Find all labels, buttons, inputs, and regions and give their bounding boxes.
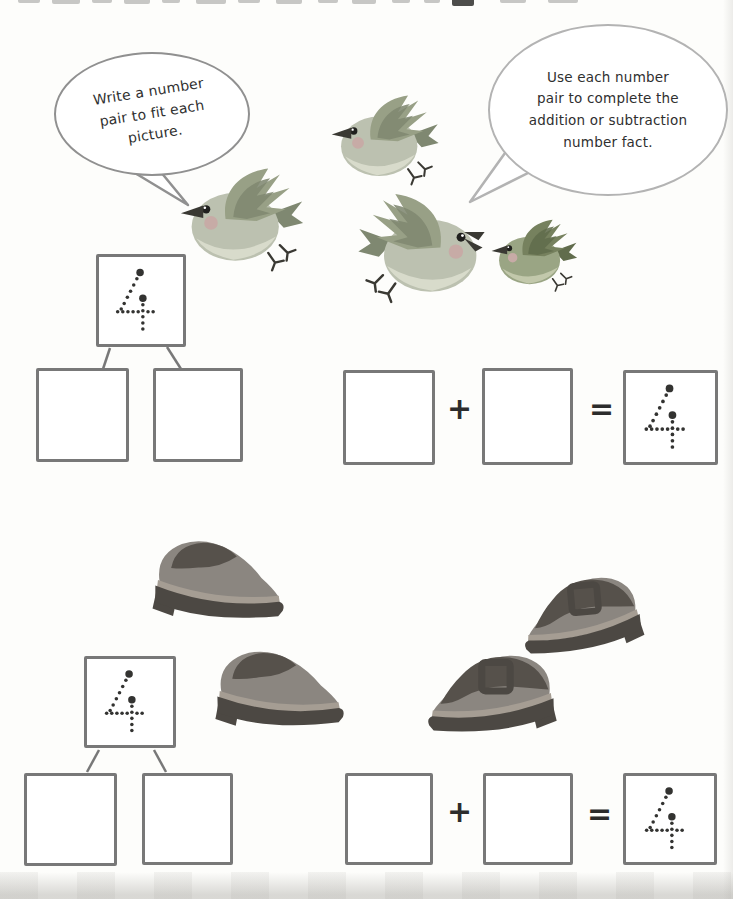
equals-sign: = — [589, 394, 614, 424]
plus-sign: + — [447, 797, 472, 827]
equation-birds: + = — [343, 368, 718, 465]
bond-total-box-shoes[interactable] — [84, 656, 176, 748]
equation-result-box-shoes[interactable] — [623, 773, 717, 865]
equation-addend1-box-shoes[interactable] — [345, 773, 433, 865]
bond-part-box-1-shoes[interactable] — [24, 773, 117, 866]
speech-bubble-right-text: Use each number pair to complete the add… — [529, 67, 688, 153]
shoe-illustration-2 — [203, 637, 352, 739]
cutoff-page-title — [0, 0, 733, 7]
scan-shadow-right — [723, 0, 733, 899]
equation-addend1-box-birds[interactable] — [343, 370, 435, 465]
bubble-line: pair to complete the — [529, 88, 688, 110]
number-bond-birds — [36, 254, 246, 462]
bond-total-box-birds[interactable] — [96, 254, 186, 347]
speech-bubble-left: Write a number pair to fit each picture. — [54, 52, 250, 176]
bird-illustration-4 — [489, 217, 581, 293]
trace-numeral-4 — [87, 659, 173, 745]
bubble-line: Use each number — [529, 67, 688, 89]
shoe-illustration-1 — [140, 525, 295, 634]
scan-shadow-band — [0, 872, 733, 899]
worksheet-page: Write a number pair to fit each picture.… — [0, 0, 733, 899]
number-bond-shoes — [24, 656, 234, 866]
trace-numeral-4 — [626, 373, 715, 462]
trace-numeral-4 — [626, 776, 714, 862]
speech-bubble-left-text: Write a number pair to fit each picture. — [92, 73, 213, 155]
bond-part-box-1-birds[interactable] — [36, 368, 129, 462]
bond-part-box-2-birds[interactable] — [153, 368, 243, 462]
equation-addend2-box-birds[interactable] — [482, 368, 573, 465]
speech-bubble-right: Use each number pair to complete the add… — [488, 24, 728, 196]
bond-part-box-2-shoes[interactable] — [142, 773, 233, 865]
plus-sign: + — [447, 394, 472, 424]
shoe-illustration-4 — [414, 638, 570, 747]
trace-numeral-4 — [99, 257, 183, 344]
equation-shoes: + = — [345, 773, 718, 866]
equals-sign: = — [587, 799, 612, 829]
equation-addend2-box-shoes[interactable] — [483, 773, 573, 865]
bubble-line: number fact. — [529, 132, 688, 154]
bubble-line: addition or subtraction — [529, 110, 688, 132]
equation-result-box-birds[interactable] — [623, 370, 718, 465]
bird-illustration-1 — [326, 92, 446, 187]
